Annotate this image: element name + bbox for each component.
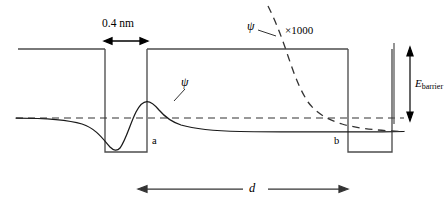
gap-distance-label: d (249, 182, 255, 195)
gap-width-dimension-arrow (104, 38, 148, 44)
gap-width-label: 0.4 nm (102, 18, 134, 30)
barrier-energy-subscript: barrier (422, 82, 443, 91)
wavefunction-psi-curve (16, 102, 404, 151)
gap-distance-arrows (138, 186, 348, 193)
barrier-energy-arrow (407, 47, 413, 121)
figure-canvas: 0.4 nm ψ ψ ×1000 a b Ebarrier d (0, 0, 444, 207)
point-b-label: b (334, 136, 339, 147)
psi-left-label: ψ (181, 76, 188, 88)
potential-diagram-svg (0, 0, 444, 207)
right-well-outline (348, 49, 392, 152)
psi-multiplier-label: ×1000 (285, 25, 313, 36)
psi-left-leader-line (174, 89, 185, 101)
psi-right-label: ψ (247, 20, 254, 32)
point-a-label: a (152, 136, 157, 147)
psi-right-leader-line (258, 30, 276, 36)
barrier-energy-symbol: E (415, 77, 422, 89)
barrier-energy-label: Ebarrier (415, 78, 443, 89)
